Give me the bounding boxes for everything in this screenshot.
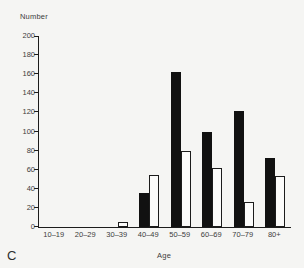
bar-black-50–59 — [171, 72, 181, 227]
bar-white-30–39 — [118, 222, 128, 227]
y-tick-label: 60 — [27, 166, 35, 174]
x-tick-label: 80+ — [268, 231, 281, 239]
x-tick-label: 60–69 — [201, 231, 222, 239]
y-tick-label: 120 — [22, 108, 35, 116]
y-tick-label: 140 — [22, 89, 35, 97]
x-axis-title: Age — [38, 252, 290, 260]
y-tick-label: 100 — [22, 128, 35, 136]
y-tick-label: 160 — [22, 70, 35, 78]
bar-black-60–69 — [202, 132, 212, 228]
y-tick-label: 180 — [22, 51, 35, 59]
bar-white-60–69 — [212, 168, 222, 227]
y-tick-label: 20 — [27, 204, 35, 212]
x-tick-label: 40–49 — [138, 231, 159, 239]
figure-panel: Number 020406080100120140160180200 10–19… — [0, 0, 304, 268]
bar-white-70–79 — [244, 202, 254, 227]
bar-white-40–49 — [149, 175, 159, 227]
panel-label: C — [7, 249, 16, 263]
bar-black-70–79 — [234, 111, 244, 228]
bar-white-80+ — [275, 176, 285, 227]
y-tick-label: 40 — [27, 185, 35, 193]
x-tick-label: 50–59 — [169, 231, 190, 239]
bar-black-40–49 — [139, 193, 149, 227]
x-tick-label: 20–29 — [75, 231, 96, 239]
bar-white-50–59 — [181, 151, 191, 227]
plot-area: 020406080100120140160180200 — [38, 36, 291, 228]
y-axis-title: Number — [20, 13, 48, 21]
y-tick-label: 200 — [22, 32, 35, 40]
bar-black-80+ — [265, 158, 275, 227]
x-tick-label: 10–19 — [43, 231, 64, 239]
y-tick-label: 0 — [31, 223, 35, 231]
x-axis-labels: 10–1920–2930–3940–4950–5960–6970–7980+ — [38, 231, 290, 241]
y-tick-label: 80 — [27, 147, 35, 155]
x-tick-label: 70–79 — [232, 231, 253, 239]
x-tick-label: 30–39 — [106, 231, 127, 239]
